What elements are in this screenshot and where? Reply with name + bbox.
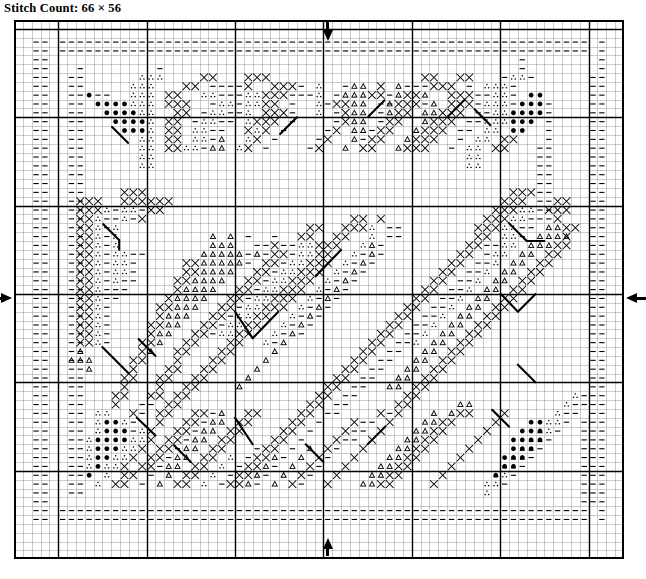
left-center-arrow [1, 293, 12, 303]
right-center-arrow [626, 293, 637, 303]
pattern-grid[interactable] [14, 20, 624, 559]
top-center-arrow [323, 30, 333, 41]
bottom-center-arrow-stem [326, 547, 329, 556]
left-center-arrow-stem [0, 297, 1, 300]
stitch-count-label: Stitch Count: [4, 1, 78, 15]
pattern-grid-canvas[interactable] [14, 20, 624, 559]
stitch-count-value: 66 × 56 [78, 1, 121, 15]
page-title: Stitch Count:66 × 56 [4, 1, 121, 16]
top-center-arrow-stem [326, 22, 329, 31]
right-center-arrow-stem [637, 297, 646, 300]
